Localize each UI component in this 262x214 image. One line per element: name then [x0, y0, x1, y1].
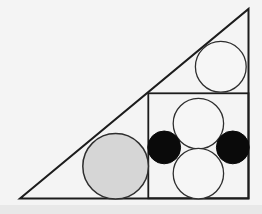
geometry-figure: [0, 0, 262, 214]
figure-canvas: [0, 0, 262, 214]
left-black-circle: [148, 131, 181, 164]
right-black-circle: [216, 131, 249, 164]
gray-circle: [83, 134, 149, 200]
corner-white-circle: [195, 41, 246, 92]
bottom-white-circle: [173, 148, 223, 198]
top-white-circle: [173, 98, 223, 148]
bottom-band: [0, 205, 262, 214]
